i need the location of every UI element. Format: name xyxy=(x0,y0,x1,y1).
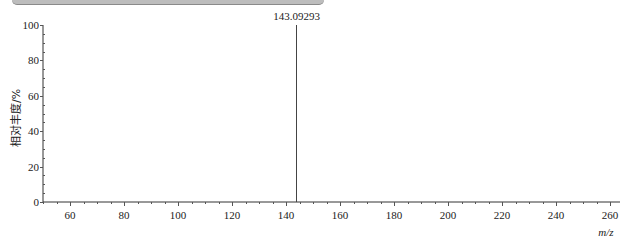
y-tick-label: 40 xyxy=(28,125,40,137)
x-tick-label: 120 xyxy=(224,209,241,221)
x-tick-label: 220 xyxy=(494,209,511,221)
x-tick-label: 60 xyxy=(65,209,77,221)
x-tick-label: 260 xyxy=(602,209,619,221)
x-tick-label: 160 xyxy=(332,209,349,221)
x-tick-label: 240 xyxy=(548,209,565,221)
y-tick-label: 60 xyxy=(28,90,40,102)
peak-label: 143.09293 xyxy=(273,10,320,22)
x-tick-label: 100 xyxy=(170,209,187,221)
y-tick-label: 80 xyxy=(28,54,40,66)
axes: 0204060801006080100120140160180200220240… xyxy=(23,19,621,221)
x-tick-label: 180 xyxy=(386,209,403,221)
x-tick-label: 200 xyxy=(440,209,457,221)
y-tick-label: 20 xyxy=(28,161,40,173)
y-axis-label: 相对丰度/% xyxy=(9,89,23,147)
x-tick-label: 80 xyxy=(119,209,131,221)
x-axis-label: m/z xyxy=(598,226,614,238)
y-tick-label: 100 xyxy=(23,19,40,31)
mass-spectrum-chart: 0204060801006080100120140160180200220240… xyxy=(0,0,640,243)
y-tick-label: 0 xyxy=(34,196,40,208)
x-tick-label: 140 xyxy=(278,209,295,221)
peaks: 143.09293 xyxy=(273,10,320,202)
